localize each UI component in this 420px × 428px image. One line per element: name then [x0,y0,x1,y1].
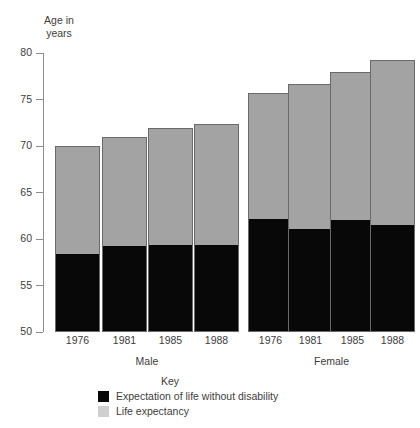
bar-segment-without-disability [195,245,238,331]
y-tick-70 [36,146,43,147]
y-tick-55 [36,285,43,286]
y-tick-60 [36,239,43,240]
y-tick-label-50: 50 [6,326,32,336]
y-tick-75 [36,99,43,100]
bar-female-1985 [330,72,375,332]
legend-swatch-life-expectancy [98,406,109,417]
y-tick-label-65: 65 [6,187,32,197]
bar-female-1988 [370,60,415,332]
y-tick-label-70: 70 [6,140,32,150]
legend-label-without-disability: Expectation of life without disability [116,391,278,402]
bar-male-1976 [55,146,100,332]
y-tick-50 [36,332,43,333]
chart-container: Age in years 80757065605550 197619811985… [0,0,420,428]
group-label-female: Female [292,355,372,367]
bar-segment-without-disability [371,225,414,331]
y-tick-label-75: 75 [6,94,32,104]
bar-segment-without-disability [289,229,332,331]
bar-segment-without-disability [249,219,292,331]
bar-segment-without-disability [56,254,99,331]
x-label-female-1988: 1988 [364,334,420,346]
legend-title: Key [140,375,200,387]
bar-segment-without-disability [149,245,192,331]
y-axis-line [43,53,44,332]
y-tick-label-55: 55 [6,280,32,290]
plot-area: 80757065605550 1976198119851988197619811… [0,0,420,428]
y-tick-label-60: 60 [6,233,32,243]
bar-male-1981 [102,137,147,332]
legend-entry-without-disability: Expectation of life without disability [98,390,278,403]
legend-swatch-without-disability [98,391,109,402]
y-tick-label-80: 80 [6,47,32,57]
bar-male-1985 [148,128,193,332]
bar-female-1976 [248,93,293,332]
bar-segment-without-disability [103,246,146,331]
y-tick-65 [36,192,43,193]
legend-label-life-expectancy: Life expectancy [116,406,189,417]
bar-female-1981 [288,84,333,332]
bar-male-1988 [194,124,239,332]
y-tick-80 [36,53,43,54]
legend-entry-life-expectancy: Life expectancy [98,405,189,418]
x-label-male-1988: 1988 [188,334,245,346]
group-label-male: Male [107,355,187,367]
bar-segment-without-disability [331,220,374,331]
